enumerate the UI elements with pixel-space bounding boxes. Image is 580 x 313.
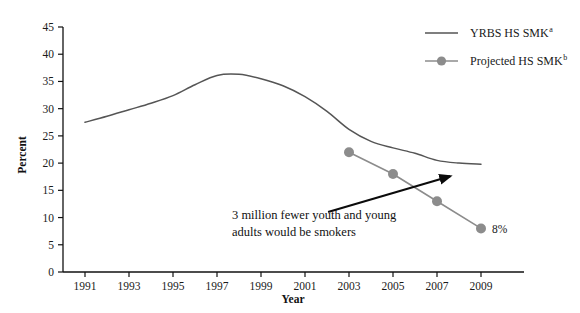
y-tick-label: 5 [48,239,54,251]
x-tick-label: 1995 [162,280,185,292]
chart-figure: 051015202530354045 199119931995199719992… [0,0,580,313]
legend-superscript-projected: b [563,53,567,62]
callout-arrow [328,176,450,212]
callout-text-line-2: adults would be smokers [232,225,356,239]
data-point-marker [432,196,442,206]
data-point-marker [476,223,486,233]
legend-label-projected: Projected HS SMK [470,54,563,68]
x-tick-label: 1993 [118,280,141,292]
x-tick-label: 2005 [382,280,405,292]
legend-label-yrbs: YRBS HS SMK [470,26,549,40]
callout-text-line-1: 3 million fewer youth and young [232,208,397,222]
x-tick-label: 2001 [294,280,317,292]
endpoint-value-label: 8% [492,223,508,235]
x-tick-group: 1991199319951997199920012003200520072009 [74,272,493,292]
data-point-marker [388,169,398,179]
y-tick-label: 0 [48,266,54,278]
legend-superscript-yrbs: a [549,25,553,34]
y-tick-label: 35 [43,75,55,87]
y-tick-label: 30 [43,103,55,115]
chart-legend: YRBS HS SMK a Projected HS SMK b [425,25,567,68]
x-tick-label: 2007 [426,280,449,292]
y-tick-label: 25 [43,130,55,142]
y-tick-label: 40 [43,48,55,60]
x-tick-label: 1999 [250,280,273,292]
chart-canvas: 051015202530354045 199119931995199719992… [0,0,580,313]
x-tick-label: 2009 [470,280,493,292]
x-tick-label: 2003 [338,280,361,292]
x-axis-title: Year [282,293,305,305]
data-point-marker [344,147,354,157]
x-tick-label: 1991 [74,280,97,292]
y-tick-label: 10 [43,212,55,224]
series-line-yrbs-hs-smk [85,74,481,164]
x-tick-label: 1997 [206,280,229,292]
y-tick-group: 051015202530354045 [43,21,64,278]
y-tick-label: 45 [43,21,55,33]
y-tick-label: 20 [43,157,55,169]
y-axis-title: Percent [16,136,28,174]
legend-swatch-marker-projected [437,56,446,65]
y-tick-label: 15 [43,184,55,196]
